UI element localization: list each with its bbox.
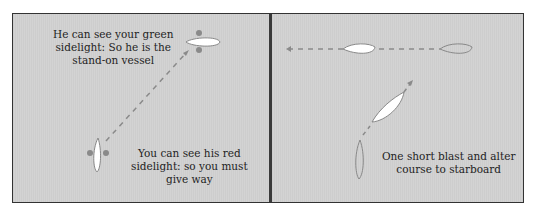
caption-line: course to starboard [382, 163, 515, 176]
dashed-track-line [404, 84, 410, 92]
caption-line: You can see his red [131, 147, 248, 160]
green-sidelight-icon [196, 47, 202, 53]
sidelight-icon [196, 30, 202, 36]
red-sidelight-icon [103, 150, 109, 156]
caption-line: sidelight: so you must [131, 160, 248, 173]
caption-line: give way [131, 173, 248, 186]
own-vessel-altered-course-boat-icon [372, 92, 404, 122]
alter-course-caption: One short blast and alter course to star… [382, 150, 515, 176]
crossing-vessel-previous-position-icon [440, 44, 472, 53]
dashed-track-line [363, 126, 370, 135]
stand-on-vessel-caption: He can see your green sidelight: So he i… [53, 28, 173, 67]
arrow-head-icon [183, 50, 189, 56]
stand-on-vessel-boat-icon [186, 38, 220, 46]
own-vessel-previous-position-icon [356, 140, 364, 179]
right-panel-alter-course: One short blast and alter course to star… [272, 14, 523, 202]
diagram-frame: He can see your green sidelight: So he i… [12, 13, 524, 203]
caption-line: sidelight: So he is the [53, 41, 173, 54]
sidelight-icon [87, 150, 93, 156]
arrow-head-icon [286, 46, 291, 52]
caption-line: One short blast and alter [382, 150, 515, 163]
caption-line: stand-on vessel [53, 54, 173, 67]
crossing-vessel-boat-icon [343, 44, 375, 53]
give-way-vessel-caption: You can see his red sidelight: so you mu… [131, 147, 248, 186]
caption-line: He can see your green [53, 28, 173, 41]
give-way-vessel-boat-icon [94, 138, 101, 172]
left-panel-crossing-situation: He can see your green sidelight: So he i… [13, 14, 269, 202]
arrow-head-icon [407, 80, 413, 86]
